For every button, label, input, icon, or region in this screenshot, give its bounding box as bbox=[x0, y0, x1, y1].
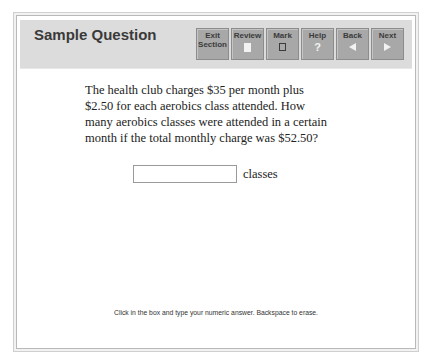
exit-label-line1: Exit bbox=[205, 31, 220, 40]
exit-label-line2: Section bbox=[198, 40, 227, 49]
arrow-right-icon bbox=[384, 43, 391, 51]
review-button[interactable]: Review bbox=[231, 28, 264, 60]
back-label: Back bbox=[343, 31, 362, 40]
arrow-left-icon bbox=[349, 43, 356, 51]
checkbox-icon bbox=[279, 43, 286, 51]
numeric-answer-input[interactable] bbox=[133, 165, 237, 183]
help-label: Help bbox=[309, 31, 326, 40]
page-title: Sample Question bbox=[34, 26, 157, 43]
back-button[interactable]: Back bbox=[336, 28, 369, 60]
instructions-text: Click in the box and type your numeric a… bbox=[0, 309, 432, 316]
exit-section-button[interactable]: Exit Section bbox=[196, 28, 229, 60]
next-label: Next bbox=[379, 31, 396, 40]
header-bar: Sample Question Exit Section Review Mark… bbox=[20, 20, 412, 69]
help-button[interactable]: Help ? bbox=[301, 28, 334, 60]
question-mark-icon: ? bbox=[314, 42, 321, 52]
review-label: Review bbox=[234, 31, 262, 40]
toolbar: Exit Section Review Mark Help ? Back Nex… bbox=[196, 28, 404, 60]
mark-label: Mark bbox=[273, 31, 292, 40]
question-text: The health club charges $35 per month pl… bbox=[85, 82, 335, 146]
unit-label: classes bbox=[243, 167, 278, 182]
next-button[interactable]: Next bbox=[371, 28, 404, 60]
answer-row: classes bbox=[133, 165, 278, 183]
review-page-icon bbox=[244, 43, 251, 52]
mark-button[interactable]: Mark bbox=[266, 28, 299, 60]
